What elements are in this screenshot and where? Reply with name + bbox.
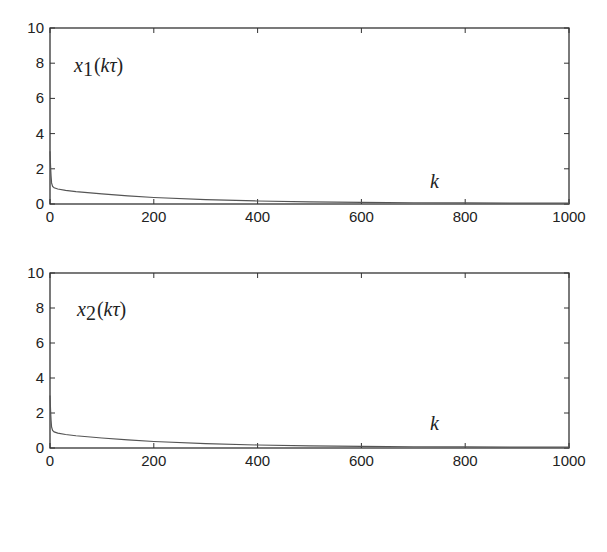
y-tick-label: 2 [36, 404, 44, 421]
y-tick-label: 8 [36, 299, 44, 316]
series-annotation: x2(kτ) [76, 298, 126, 324]
x-tick-label: 600 [349, 208, 374, 225]
series-line [50, 396, 569, 448]
series-line [50, 151, 569, 203]
x-tick-label: 1000 [552, 208, 585, 225]
plot-frame [50, 273, 569, 448]
x-tick-label: 200 [141, 208, 166, 225]
y-tick-label: 10 [27, 19, 44, 36]
y-tick-label: 0 [36, 195, 44, 212]
x-tick-label: 1000 [552, 452, 585, 469]
x-tick-label: 800 [453, 208, 478, 225]
chart-1: 020040060080010000246810x1(kτ)k [27, 19, 585, 225]
x-tick-label: 0 [46, 452, 54, 469]
y-tick-label: 8 [36, 54, 44, 71]
series-annotation: x1(kτ) [73, 54, 123, 80]
x-tick-label: 600 [349, 452, 374, 469]
plot-frame [50, 28, 569, 204]
y-tick-label: 0 [36, 439, 44, 456]
x-tick-label: 400 [245, 452, 270, 469]
y-tick-label: 2 [36, 160, 44, 177]
figure: 020040060080010000246810x1(kτ)k020040060… [0, 0, 607, 552]
y-tick-label: 4 [36, 125, 44, 142]
y-tick-label: 6 [36, 334, 44, 351]
x-tick-label: 400 [245, 208, 270, 225]
x-tick-label: 0 [46, 208, 54, 225]
y-tick-label: 10 [27, 264, 44, 281]
x-axis-label: k [430, 412, 440, 434]
x-tick-label: 800 [453, 452, 478, 469]
x-axis-label: k [430, 170, 440, 192]
y-tick-label: 4 [36, 369, 44, 386]
x-tick-label: 200 [141, 452, 166, 469]
y-tick-label: 6 [36, 89, 44, 106]
chart-2: 020040060080010000246810x2(kτ)k [27, 264, 585, 469]
